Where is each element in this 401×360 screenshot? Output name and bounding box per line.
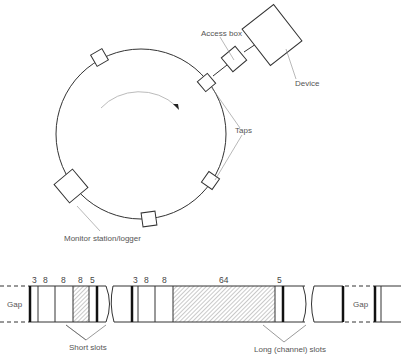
slot-size: 8 [162, 275, 167, 285]
short-slots-label: Short slots [69, 343, 107, 352]
direction-arrow-icon [101, 92, 179, 110]
long-slots-label: Long (channel) slots [254, 345, 326, 354]
gap-label-right: Gap [353, 300, 369, 309]
monitor-station-label: Monitor station/logger [64, 234, 141, 243]
slot-size: 8 [78, 275, 83, 285]
monitor-station-box [54, 169, 88, 203]
device-label: Device [295, 79, 320, 88]
slot-size: 3 [32, 275, 37, 285]
slot-size: 5 [90, 275, 95, 285]
slot-size: 64 [219, 275, 229, 285]
ring-network-diagram: Access box Device Taps Monitor station/l… [0, 0, 401, 360]
device-box [242, 5, 302, 66]
slot-size: 8 [144, 275, 149, 285]
slot-size: 3 [133, 275, 138, 285]
tap-box [141, 211, 157, 227]
slot-size: 8 [43, 275, 48, 285]
access-box-label: Access box [201, 29, 242, 38]
slot-size: 5 [277, 275, 282, 285]
slot-strip: Gap Gap [0, 286, 401, 322]
taps-label: Taps [235, 126, 252, 135]
slot-size: 8 [61, 275, 66, 285]
tap-box [201, 171, 219, 189]
access-box [221, 46, 246, 71]
gap-label-left: Gap [7, 300, 23, 309]
